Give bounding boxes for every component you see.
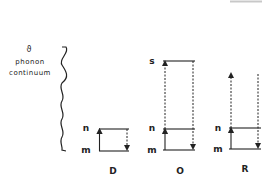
- panel-r: n m R: [213, 74, 261, 174]
- panel-label-d: D: [109, 166, 116, 176]
- theta-symbol: ϑ: [27, 45, 32, 54]
- level-s-label: s: [149, 56, 154, 66]
- level-m-label: m: [147, 145, 156, 155]
- level-n-label: n: [215, 123, 221, 133]
- panel-d: n m D: [81, 123, 129, 176]
- level-n-label: n: [149, 123, 155, 133]
- level-n-label: n: [83, 123, 89, 133]
- energy-level-diagram: ϑ phonon continuum n m D s n m O: [0, 0, 271, 183]
- panel-label-r: R: [242, 164, 249, 174]
- level-m-label: m: [81, 145, 90, 155]
- panel-label-o: O: [176, 166, 184, 176]
- continuum-text: continuum: [9, 69, 51, 77]
- level-m-label: m: [213, 144, 222, 154]
- continuum-label: ϑ phonon continuum: [9, 45, 51, 77]
- phonon-continuum-wave: [61, 47, 67, 151]
- phonon-text: phonon: [15, 58, 44, 66]
- panel-o: s n m O: [147, 56, 195, 176]
